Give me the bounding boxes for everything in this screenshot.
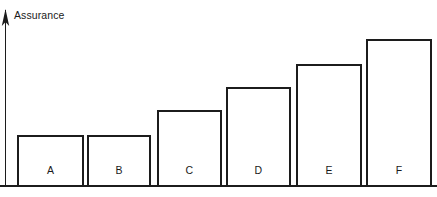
y-axis-label: Assurance bbox=[14, 9, 65, 21]
bar-label-a: A bbox=[47, 164, 54, 176]
bar-label-f: F bbox=[396, 164, 403, 176]
bar-a bbox=[18, 136, 83, 186]
bar-label-b: B bbox=[115, 164, 122, 176]
bar-label-d: D bbox=[255, 164, 263, 176]
bar-label-e: E bbox=[325, 164, 332, 176]
bar-label-c: C bbox=[186, 164, 194, 176]
chart-canvas: Assurance ABCDEF bbox=[0, 0, 437, 197]
assurance-bar-chart: Assurance ABCDEF bbox=[0, 0, 437, 197]
bar-b bbox=[88, 136, 150, 186]
